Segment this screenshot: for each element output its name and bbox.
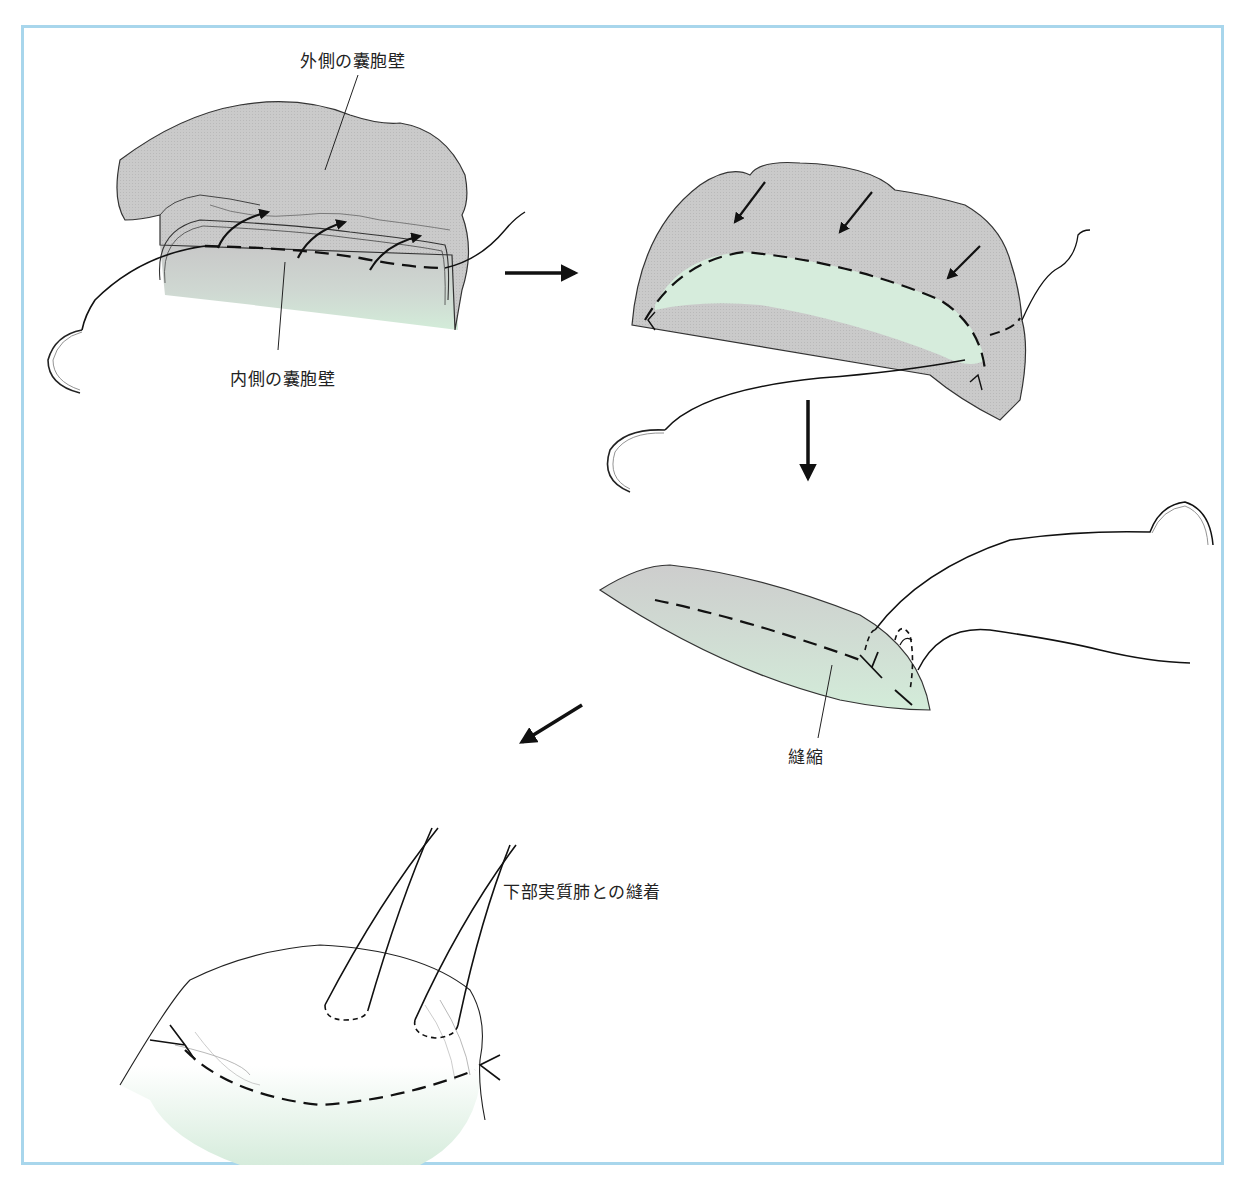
label-plication: 縫縮 (788, 743, 823, 768)
panel-step-3 (600, 502, 1213, 738)
arrow-down-left-icon (522, 705, 582, 742)
label-outer-cyst-wall: 外側の囊胞壁 (300, 47, 405, 72)
label-inner-cyst-wall: 内側の囊胞壁 (230, 365, 335, 390)
label-suture-to-lower-lung: 下部実質肺との縫着 (503, 878, 661, 903)
surgical-diagram (0, 0, 1249, 1197)
panel-step-1 (48, 75, 525, 393)
panel-step-4 (120, 828, 516, 1165)
panel-step-2 (608, 163, 1091, 493)
